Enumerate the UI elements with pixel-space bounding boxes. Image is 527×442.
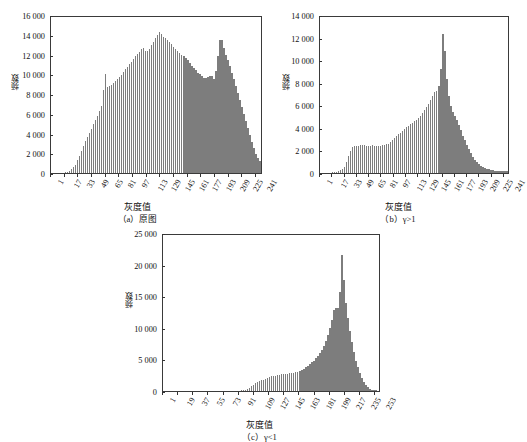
x-tick-label: 145 — [439, 178, 453, 193]
x-tick-mark — [466, 174, 467, 177]
x-tick-label: 81 — [126, 178, 138, 190]
y-tick-label: 5 000 — [112, 356, 157, 365]
x-tick-label: 129 — [169, 178, 183, 193]
x-tick-mark — [359, 392, 360, 395]
x-tick-label: 161 — [452, 178, 466, 193]
y-tick-label: 8 000 — [277, 79, 314, 88]
x-tick-label: 17 — [339, 178, 351, 190]
x-tick-mark — [132, 174, 133, 177]
x-tick-label: 161 — [197, 178, 211, 193]
y-tick-label: 4 000 — [277, 124, 314, 133]
x-tick-label: 1 — [325, 178, 335, 186]
y-tick-label: 15 000 — [112, 293, 157, 302]
y-tick-label: 20 000 — [112, 261, 157, 270]
x-tick-mark — [374, 392, 375, 395]
x-tick-mark — [478, 174, 479, 177]
x-tick-label: 127 — [278, 396, 292, 411]
x-tick-mark — [238, 392, 239, 395]
caption-c: （c）γ<1 — [112, 430, 407, 442]
x-tick-mark — [454, 174, 455, 177]
x-tick-label: 177 — [211, 178, 225, 193]
y-tick-label: 25 000 — [112, 230, 157, 239]
x-tick-mark — [298, 392, 299, 395]
y-tick-label: 14 000 — [277, 12, 314, 21]
y-tick-label: 0 — [112, 388, 157, 397]
x-tick-mark — [192, 392, 193, 395]
x-tick-label: 177 — [464, 178, 478, 193]
x-tick-label: 17 — [72, 178, 84, 190]
y-tick-mark — [319, 61, 322, 62]
x-tick-label: 97 — [401, 178, 413, 190]
x-tick-label: 37 — [200, 396, 212, 408]
y-tick-mark — [50, 135, 53, 136]
x-tick-mark — [200, 174, 201, 177]
x-tick-label: 235 — [369, 396, 383, 411]
figure-a-original-histogram: 频数 02 0004 0006 0008 00010 00012 00014 0… — [0, 4, 275, 220]
y-tick-label: 14 000 — [0, 31, 45, 40]
axes-box-a — [50, 16, 262, 174]
y-tick-label: 10 000 — [277, 57, 314, 66]
y-tick-mark — [50, 115, 53, 116]
y-tick-label: 8 000 — [0, 91, 45, 100]
x-tick-label: 209 — [488, 178, 502, 193]
x-tick-mark — [405, 174, 406, 177]
x-tick-mark — [283, 392, 284, 395]
x-tick-mark — [207, 392, 208, 395]
y-tick-label: 10 000 — [112, 324, 157, 333]
y-tick-mark — [319, 39, 322, 40]
x-tick-label: 65 — [113, 178, 125, 190]
y-tick-mark — [162, 297, 165, 298]
x-tick-mark — [503, 174, 504, 177]
x-tick-label: 225 — [252, 178, 266, 193]
x-tick-mark — [417, 174, 418, 177]
x-tick-label: 217 — [354, 396, 368, 411]
histogram-bars-b — [320, 17, 508, 173]
x-tick-label: 253 — [384, 396, 398, 411]
x-tick-mark — [491, 174, 492, 177]
x-tick-mark — [105, 174, 106, 177]
x-tick-label: 73 — [231, 396, 243, 408]
y-tick-label: 0 — [0, 170, 45, 179]
caption-a: （a）原图 — [0, 212, 275, 224]
x-tick-mark — [50, 174, 51, 177]
x-tick-label: 19 — [185, 396, 197, 408]
y-tick-label: 6 000 — [0, 110, 45, 119]
y-tick-label: 16 000 — [0, 12, 45, 21]
x-tick-mark — [319, 174, 320, 177]
x-tick-label: 145 — [293, 396, 307, 411]
y-tick-mark — [162, 266, 165, 267]
x-tick-mark — [344, 174, 345, 177]
x-tick-mark — [187, 174, 188, 177]
x-tick-label: 91 — [246, 396, 258, 408]
figure-c-gamma-lt-1-histogram: 频数 05 00010 00015 00020 00025 000 119375… — [112, 226, 407, 442]
y-tick-label: 12 000 — [0, 51, 45, 60]
y-tick-mark — [50, 95, 53, 96]
y-tick-label: 12 000 — [277, 34, 314, 43]
histogram-bars-a — [51, 17, 261, 173]
x-tick-label: 33 — [85, 178, 97, 190]
x-tick-label: 1 — [168, 396, 178, 404]
y-tick-label: 4 000 — [0, 130, 45, 139]
x-tick-mark — [214, 174, 215, 177]
x-tick-label: 55 — [215, 396, 227, 408]
x-tick-mark — [331, 174, 332, 177]
x-tick-label: 65 — [376, 178, 388, 190]
y-tick-mark — [162, 234, 165, 235]
y-tick-label: 2 000 — [277, 147, 314, 156]
y-tick-mark — [319, 16, 322, 17]
x-tick-mark — [118, 174, 119, 177]
y-tick-label: 10 000 — [0, 71, 45, 80]
y-tick-mark — [50, 16, 53, 17]
y-tick-label: 6 000 — [277, 102, 314, 111]
x-tick-mark — [380, 174, 381, 177]
y-tick-mark — [319, 106, 322, 107]
x-tick-mark — [442, 174, 443, 177]
x-tick-label: 209 — [238, 178, 252, 193]
x-tick-mark — [77, 174, 78, 177]
x-tick-mark — [314, 392, 315, 395]
x-tick-label: 181 — [324, 396, 338, 411]
x-tick-label: 33 — [352, 178, 364, 190]
y-tick-mark — [50, 154, 53, 155]
x-tick-mark — [91, 174, 92, 177]
x-tick-mark — [241, 174, 242, 177]
